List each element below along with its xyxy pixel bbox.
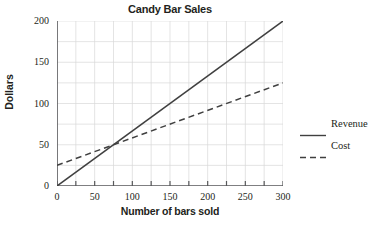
legend-item-cost: Cost xyxy=(300,138,379,160)
legend-label-cost: Cost xyxy=(331,138,350,153)
chart-legend: Revenue Cost xyxy=(300,116,379,160)
y-tick-label: 100 xyxy=(15,98,49,109)
chart-title: Candy Bar Sales xyxy=(57,3,283,15)
y-axis-label: Dollars xyxy=(3,62,15,122)
x-tick-label: 200 xyxy=(188,191,228,202)
x-axis-label: Number of bars sold xyxy=(57,205,283,217)
x-tick-label: 150 xyxy=(150,191,190,202)
legend-label-revenue: Revenue xyxy=(331,116,368,131)
x-tick-label: 50 xyxy=(75,191,115,202)
x-tick-label: 0 xyxy=(37,191,77,202)
chart-figure: Candy Bar Sales Dollars Number of bars s… xyxy=(0,0,379,229)
x-tick-label: 250 xyxy=(225,191,265,202)
y-tick-label: 50 xyxy=(15,139,49,150)
y-tick-label: 150 xyxy=(15,56,49,67)
legend-swatch-solid xyxy=(300,123,326,126)
plot-area xyxy=(57,21,283,186)
y-tick-label: 200 xyxy=(15,15,49,26)
y-tick-label: 0 xyxy=(15,180,49,191)
x-tick-label: 100 xyxy=(112,191,152,202)
legend-swatch-dashed xyxy=(300,145,326,148)
plot-svg xyxy=(57,21,283,186)
legend-item-revenue: Revenue xyxy=(300,116,379,138)
x-tick-label: 300 xyxy=(263,191,303,202)
